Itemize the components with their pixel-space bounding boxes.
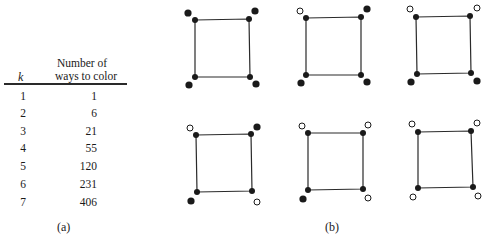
filled-dot-icon (297, 79, 304, 86)
filled-dot-icon (407, 78, 414, 85)
filled-dot-icon (473, 77, 480, 84)
filled-dot-icon (251, 7, 258, 14)
open-dot-icon (365, 122, 371, 128)
open-dot-icon (475, 193, 481, 199)
square-5-edges (308, 133, 363, 190)
filled-dot-icon (184, 9, 191, 16)
filled-dot-icon (253, 123, 260, 130)
filled-dot-icon (185, 81, 192, 88)
open-dot-icon (407, 6, 413, 12)
open-dot-icon (254, 199, 260, 205)
open-dot-icon (409, 121, 415, 127)
square-6-edges (418, 131, 473, 188)
caption-b: (b) (325, 220, 339, 235)
open-dot-icon (299, 123, 305, 129)
filled-dot-icon (299, 195, 306, 202)
square-1-edges (195, 19, 250, 77)
vertex-dots (192, 13, 476, 195)
open-dot-icon (474, 5, 480, 11)
open-dot-icon (187, 125, 193, 131)
filled-dot-icon (252, 80, 259, 87)
open-dot-icon (474, 120, 480, 126)
open-dot-icon (365, 195, 371, 201)
square-3-edges (416, 16, 471, 74)
color-markers (184, 5, 481, 205)
open-dot-icon (410, 194, 416, 200)
filled-dot-icon (363, 5, 370, 12)
filled-dot-icon (187, 197, 194, 204)
square-colorings-figure (0, 0, 486, 243)
filled-dot-icon (363, 78, 370, 85)
square-2-edges (306, 17, 361, 75)
square-4-edges (196, 134, 252, 192)
open-dot-icon (297, 8, 303, 14)
